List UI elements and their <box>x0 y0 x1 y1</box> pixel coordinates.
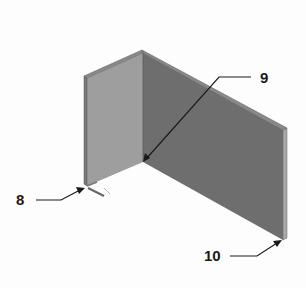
arrowhead-8 <box>76 187 85 194</box>
callout-label-10: 10 <box>204 248 221 263</box>
right-panel-end-edge <box>283 128 287 240</box>
foot-mark <box>104 188 110 194</box>
panel-assembly-drawing <box>0 0 306 288</box>
callout-label-9: 9 <box>260 70 268 85</box>
arrowhead-10 <box>273 240 282 247</box>
diagram-canvas: 9 8 10 <box>0 0 306 288</box>
foot-bracket-leg <box>88 188 104 196</box>
callout-label-8: 8 <box>16 192 24 207</box>
left-panel-end-edge <box>84 76 87 186</box>
leader-line-8 <box>36 190 80 200</box>
leader-line-10 <box>230 243 277 256</box>
